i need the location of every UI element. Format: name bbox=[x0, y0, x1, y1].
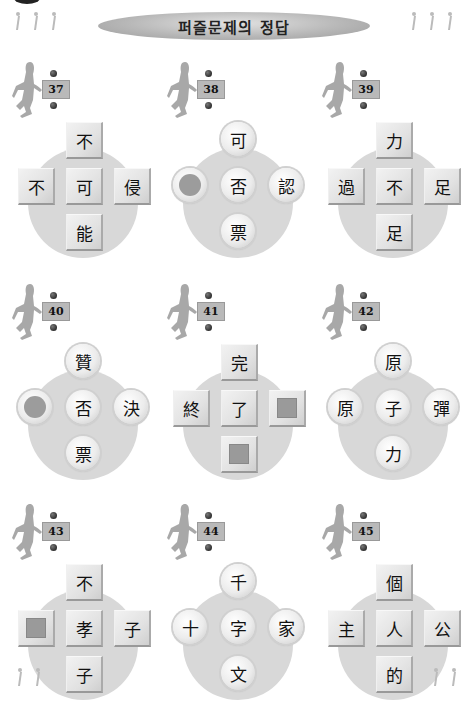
puzzle-number: 40 bbox=[42, 302, 70, 321]
walker-icon bbox=[32, 12, 40, 32]
bead-icon bbox=[50, 292, 57, 299]
tile-top: 可 bbox=[221, 122, 255, 156]
tile-left: 過 bbox=[328, 168, 365, 205]
tile-top: 贊 bbox=[66, 344, 100, 378]
tile-top: 完 bbox=[221, 344, 258, 381]
tile-bottom: 票 bbox=[66, 436, 100, 470]
walking-figures-bottom-right bbox=[432, 668, 458, 688]
puzzle-39: 39力過不足足 bbox=[310, 60, 460, 270]
puzzle-44: 44千十字家文 bbox=[155, 502, 305, 706]
tile-right: 侵 bbox=[114, 168, 151, 205]
tile-left: 不 bbox=[18, 168, 55, 205]
tile-right: 決 bbox=[114, 390, 148, 424]
puzzle-number: 44 bbox=[197, 522, 225, 541]
tile-center: 字 bbox=[221, 610, 255, 644]
tile-left-blank bbox=[18, 610, 55, 647]
puzzle-42: 42原原子彈力 bbox=[310, 282, 460, 492]
title-banner: 퍼즐문제의 정답 bbox=[98, 12, 370, 40]
walker-icon bbox=[14, 12, 22, 32]
tile-top: 不 bbox=[66, 564, 103, 601]
tile-top: 力 bbox=[376, 122, 413, 159]
tile-right: 公 bbox=[424, 610, 461, 647]
tile-center: 了 bbox=[221, 390, 258, 427]
tile-center: 否 bbox=[66, 390, 100, 424]
bead-icon bbox=[205, 70, 212, 77]
tile-right-blank bbox=[269, 390, 306, 427]
blank-marker bbox=[229, 444, 249, 464]
tile-left: 原 bbox=[328, 390, 362, 424]
bead-icon bbox=[360, 324, 367, 331]
puzzle-number: 37 bbox=[42, 80, 70, 99]
bead-icon bbox=[205, 292, 212, 299]
puzzle-41: 41完終了 bbox=[155, 282, 305, 492]
walker-icon bbox=[432, 668, 440, 688]
tile-bottom: 的 bbox=[376, 656, 413, 693]
tile-bottom: 票 bbox=[221, 214, 255, 248]
bead-icon bbox=[50, 512, 57, 519]
tile-center: 可 bbox=[66, 168, 103, 205]
bead-icon bbox=[360, 70, 367, 77]
walker-icon bbox=[450, 668, 458, 688]
puzzle-number: 43 bbox=[42, 522, 70, 541]
tile-left: 終 bbox=[173, 390, 210, 427]
tile-right: 子 bbox=[114, 610, 151, 647]
page-title: 퍼즐문제의 정답 bbox=[178, 16, 289, 37]
bead-icon bbox=[360, 512, 367, 519]
walker-icon bbox=[34, 668, 42, 688]
walker-icon bbox=[16, 668, 24, 688]
tile-center: 不 bbox=[376, 168, 413, 205]
tile-center: 子 bbox=[376, 390, 410, 424]
bead-icon bbox=[205, 512, 212, 519]
puzzle-number: 45 bbox=[352, 522, 380, 541]
tile-bottom: 能 bbox=[66, 214, 103, 251]
bead-icon bbox=[205, 544, 212, 551]
tile-bottom: 力 bbox=[376, 436, 410, 470]
bead-icon bbox=[50, 324, 57, 331]
tile-top: 千 bbox=[221, 564, 255, 598]
bead-icon bbox=[50, 544, 57, 551]
puzzle-number: 41 bbox=[197, 302, 225, 321]
bead-icon bbox=[360, 544, 367, 551]
blank-marker bbox=[26, 618, 46, 638]
tile-right: 認 bbox=[269, 168, 303, 202]
puzzle-number: 39 bbox=[352, 80, 380, 99]
tile-top: 個 bbox=[376, 564, 413, 601]
bead-icon bbox=[50, 70, 57, 77]
bead-icon bbox=[360, 102, 367, 109]
walking-figures-bottom-left bbox=[16, 668, 42, 688]
puzzle-number: 42 bbox=[352, 302, 380, 321]
blank-marker bbox=[277, 398, 297, 418]
corner-decoration bbox=[14, 0, 40, 4]
tile-right: 彈 bbox=[424, 390, 458, 424]
tile-top: 不 bbox=[66, 122, 103, 159]
walker-icon bbox=[446, 12, 454, 32]
puzzle-38: 38可否認票 bbox=[155, 60, 305, 270]
bead-icon bbox=[50, 102, 57, 109]
bead-icon bbox=[360, 292, 367, 299]
tile-center: 人 bbox=[376, 610, 413, 647]
tile-right: 足 bbox=[424, 168, 461, 205]
blank-marker bbox=[24, 396, 46, 418]
tile-left-blank bbox=[18, 390, 52, 424]
walker-icon bbox=[410, 12, 418, 32]
tile-left: 十 bbox=[173, 610, 207, 644]
tile-center: 孝 bbox=[66, 610, 103, 647]
tile-center: 否 bbox=[221, 168, 255, 202]
puzzle-number: 38 bbox=[197, 80, 225, 99]
tile-top: 原 bbox=[376, 344, 410, 378]
bead-icon bbox=[205, 102, 212, 109]
tile-left: 主 bbox=[328, 610, 365, 647]
puzzle-37: 37不不可侵能 bbox=[0, 60, 150, 270]
tile-bottom: 足 bbox=[376, 214, 413, 251]
tile-right: 家 bbox=[269, 610, 303, 644]
walking-figures-right bbox=[410, 12, 454, 32]
puzzle-40: 40贊否決票 bbox=[0, 282, 150, 492]
tile-bottom-blank bbox=[221, 436, 258, 473]
walker-icon bbox=[428, 12, 436, 32]
tile-bottom: 子 bbox=[66, 656, 103, 693]
blank-marker bbox=[179, 174, 201, 196]
walking-figures-left bbox=[14, 12, 58, 32]
walker-icon bbox=[50, 12, 58, 32]
tile-bottom: 文 bbox=[221, 656, 255, 690]
bead-icon bbox=[205, 324, 212, 331]
